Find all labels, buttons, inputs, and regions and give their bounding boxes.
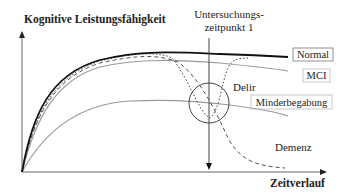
time-point-label-line2: zeitpunkt 1 <box>204 21 253 33</box>
y-axis <box>19 31 25 172</box>
x-axis-label: Zeitverlauf <box>270 177 325 189</box>
curve-demenz <box>22 57 285 173</box>
label-mci: MCI <box>307 70 327 81</box>
x-axis-arrow-icon <box>320 169 327 175</box>
cognitive-performance-diagram: Kognitive Leistungsfähigkeit Untersuchun… <box>0 0 346 196</box>
curve-mci <box>22 60 288 172</box>
time-arrow-icon <box>206 163 212 170</box>
time-point-label-line1: Untersuchungs- <box>194 8 264 20</box>
x-axis <box>22 169 327 175</box>
curve-normal <box>22 52 288 172</box>
label-delir: Delir <box>233 81 256 93</box>
y-axis-label: Kognitive Leistungsfähigkeit <box>24 13 166 26</box>
label-minderbegabung: Minderbegabung <box>256 97 328 108</box>
label-demenz: Demenz <box>275 141 312 153</box>
curve-delir <box>22 54 250 172</box>
curve-minderbegabung <box>22 100 288 172</box>
label-normal: Normal <box>297 49 329 60</box>
y-axis-arrow-icon <box>19 31 25 38</box>
